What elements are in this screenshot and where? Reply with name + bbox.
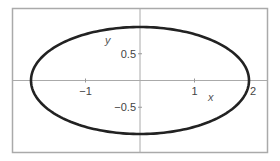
x-tick-label: 2 (250, 85, 256, 97)
y-tick-label: 0.5 (121, 48, 136, 60)
y-tick-label: −0.5 (114, 101, 136, 113)
x-axis-label: x (207, 91, 214, 103)
x-tick-label: 1 (191, 85, 197, 97)
x-tick-label: −1 (79, 85, 92, 97)
ellipse-chart: −112 0.5−0.5 x y (0, 0, 280, 161)
